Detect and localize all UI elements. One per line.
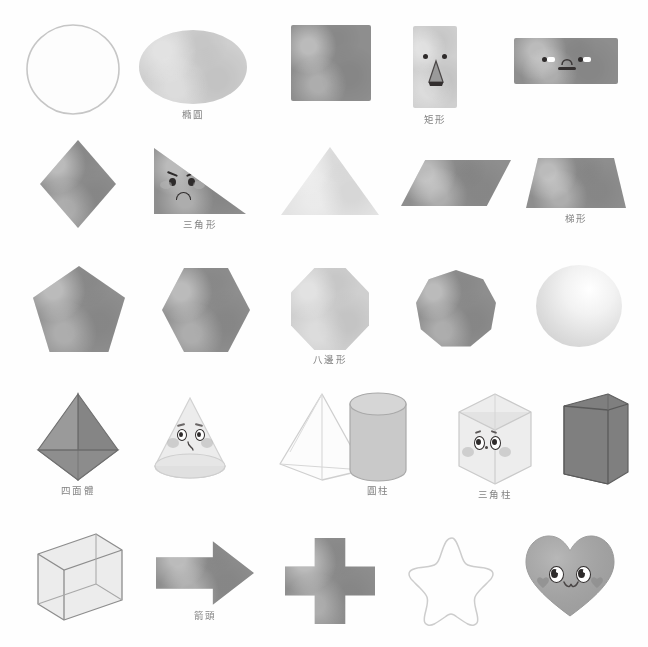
- shape-cell-right-triangle: 三角形: [152, 148, 248, 230]
- tetrahedron-shape: [32, 392, 124, 482]
- nonagon-shape: [416, 270, 496, 348]
- parallelogram-shape: [401, 160, 511, 206]
- shape-cell-parallelogram: [398, 160, 514, 209]
- shape-label: 橢圓: [182, 110, 205, 120]
- shape-cell-circle: [18, 22, 128, 121]
- shape-cell-cuboid: [556, 390, 636, 491]
- heart-shape: [522, 532, 618, 618]
- shape-label: 箭頭: [194, 611, 217, 621]
- circle-outline-shape: [23, 22, 123, 118]
- shape-label: 八邊形: [313, 355, 348, 365]
- shape-cell-cone: [140, 396, 240, 487]
- triangular-prism-shape: [453, 390, 537, 486]
- ellipse-shape: [139, 30, 247, 104]
- shape-label: 四面體: [61, 486, 96, 496]
- rhombus-shape: [40, 140, 116, 228]
- shape-label: 三角柱: [478, 490, 513, 500]
- hexagon-shape: [162, 268, 250, 352]
- shape-label: 梯形: [565, 214, 588, 224]
- shape-cell-arrow: 箭頭: [150, 540, 260, 621]
- face-right-triangle: [154, 148, 246, 214]
- shape-cell-rectangle-tall: 矩形: [404, 26, 466, 125]
- star-outline-shape: [403, 534, 501, 626]
- face-rectangle-tall: [413, 26, 457, 108]
- octagon-shape: [291, 268, 369, 350]
- shape-cell-nonagon: [413, 270, 499, 351]
- cone-shape: [143, 396, 237, 484]
- shape-label: 圓柱: [367, 486, 390, 496]
- shapes-sheet: 橢圓 矩形: [0, 0, 648, 647]
- sphere-shape: [536, 265, 622, 347]
- shape-cell-cross: [281, 538, 379, 627]
- shape-cell-triangle: [278, 147, 382, 218]
- pentagon-shape: [33, 266, 125, 352]
- wide-rectangle-shape: [514, 38, 618, 84]
- shape-label: 矩形: [424, 115, 447, 125]
- shape-label: 三角形: [183, 220, 218, 230]
- shape-cell-ellipse: 橢圓: [138, 30, 248, 120]
- right-arrow-shape: [156, 540, 254, 606]
- shape-cell-tetrahedron: 四面體: [28, 392, 128, 496]
- shape-cell-star: [400, 534, 504, 629]
- shape-cell-square: [286, 25, 376, 104]
- shape-cell-pentagon: [30, 266, 128, 355]
- face-rectangle-wide: [514, 38, 618, 84]
- shape-cell-cylinder: 圓柱: [340, 392, 416, 496]
- shape-cell-heart: [518, 532, 622, 621]
- cross-plus-shape: [285, 538, 375, 624]
- cube-wireframe-shape: [32, 528, 128, 624]
- shape-cell-triangular-prism: 三角柱: [450, 390, 540, 500]
- square-shape: [291, 25, 371, 101]
- shape-cell-trapezoid: 梯形: [524, 158, 628, 224]
- right-triangle-shape: [154, 148, 246, 214]
- equilateral-triangle-shape: [281, 147, 379, 215]
- cylinder-shape: [347, 392, 409, 482]
- shape-cell-cube: [28, 528, 132, 627]
- cuboid-shape: [560, 390, 632, 488]
- shape-cell-sphere: [533, 265, 625, 350]
- shape-cell-hexagon: [160, 268, 252, 355]
- shape-cell-octagon: 八邊形: [288, 268, 372, 365]
- shape-cell-rhombus: [30, 140, 126, 231]
- tall-rectangle-shape: [413, 26, 457, 108]
- shape-cell-rectangle-wide: [511, 38, 621, 87]
- trapezoid-shape: [526, 158, 626, 208]
